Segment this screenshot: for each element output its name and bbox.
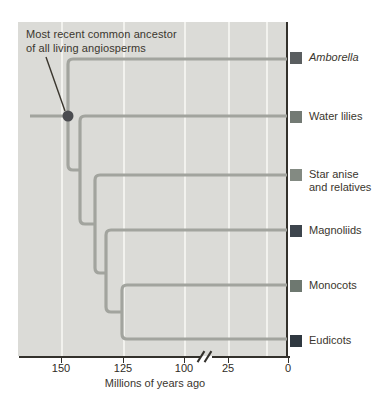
axis-line-left bbox=[19, 356, 200, 358]
magnoliids-swatch bbox=[290, 225, 302, 237]
taxon-label-eudicots: Eudicots bbox=[309, 334, 351, 347]
tick-label-25: 25 bbox=[213, 362, 243, 374]
amborella-swatch bbox=[290, 52, 302, 64]
star-anise-line2: and relatives bbox=[309, 181, 371, 193]
branch-monocots-eudicots bbox=[122, 285, 287, 339]
monocots-swatch bbox=[290, 280, 302, 292]
taxon-label-magnoliids: Magnoliids bbox=[309, 224, 362, 237]
tick-label-0: 0 bbox=[273, 362, 303, 374]
mrca-node-dot bbox=[63, 111, 74, 122]
tick-label-150: 150 bbox=[46, 362, 76, 374]
mrca-annotation-line2: of all living angiosperms bbox=[26, 41, 177, 55]
axis-title: Millions of years ago bbox=[75, 377, 235, 389]
mrca-annotation: Most recent common ancestor of all livin… bbox=[26, 27, 177, 55]
mrca-annotation-line1: Most recent common ancestor bbox=[26, 27, 177, 41]
branch-water-lilies bbox=[80, 116, 287, 224]
taxon-label-star-anise: Star aniseand relatives bbox=[309, 168, 371, 194]
star-anise-swatch bbox=[290, 169, 302, 181]
eudicots-swatch bbox=[290, 335, 302, 347]
branch-magnoliids bbox=[106, 230, 287, 312]
tick-label-100: 100 bbox=[169, 362, 199, 374]
angiosperm-phylogeny-figure: Most recent common ancestor of all livin… bbox=[0, 0, 380, 415]
axis-line-right bbox=[212, 356, 290, 358]
taxon-label-amborella: Amborella bbox=[309, 51, 359, 64]
water-lilies-swatch bbox=[290, 111, 302, 123]
annotation-pointer-line bbox=[46, 57, 65, 111]
tick-label-125: 125 bbox=[108, 362, 138, 374]
branch-star-anise bbox=[95, 175, 287, 273]
taxon-label-water-lilies: Water lilies bbox=[309, 110, 362, 123]
star-anise-line1: Star anise bbox=[309, 168, 359, 180]
taxon-label-monocots: Monocots bbox=[309, 279, 357, 292]
